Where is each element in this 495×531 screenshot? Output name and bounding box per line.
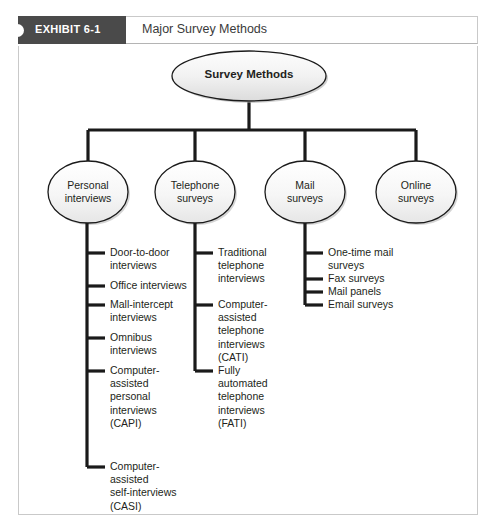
exhibit-tag-label: EXHIBIT 6-1	[35, 23, 101, 35]
node-label-online-surveys: Online surveys	[376, 179, 456, 204]
leaf-label-office-interviews: Office interviews	[110, 279, 204, 292]
exhibit-caption: Major Survey Methods	[142, 22, 267, 36]
leaf-label-omnibus-interviews: Omnibus interviews	[110, 331, 198, 357]
leaf-connectors-personal-interviews	[87, 223, 105, 467]
leaf-label-cati: Computer- assisted telephone interviews …	[218, 298, 306, 364]
node-label-telephone-surveys: Telephone surveys	[155, 179, 235, 204]
leaf-label-door-to-door-interviews: Door-to-door interviews	[110, 246, 198, 272]
leaf-label-mall-intercept-interviews: Mall-intercept interviews	[110, 298, 198, 324]
node-label-survey-methods: Survey Methods	[169, 68, 329, 81]
leaf-label-casi: Computer- assisted self-interviews (CASI…	[110, 460, 202, 513]
exhibit-header: EXHIBIT 6-1 Major Survey Methods	[18, 16, 478, 44]
node-label-personal-interviews: Personal interviews	[48, 179, 128, 204]
connector-lines	[88, 102, 416, 163]
diagram-canvas: Survey Methods Personal interviews Telep…	[19, 46, 479, 515]
leaf-connectors-mail-surveys	[305, 223, 323, 305]
leaf-label-capi: Computer- assisted personal interviews (…	[110, 364, 198, 430]
leaf-label-traditional-telephone-interviews: Traditional telephone interviews	[218, 246, 306, 286]
leaf-label-fati: Fully automated telephone interviews (FA…	[218, 364, 306, 430]
leaf-label-email-surveys: Email surveys	[328, 298, 424, 311]
leaf-label-mail-panels: Mail panels	[328, 285, 424, 298]
exhibit-tag: EXHIBIT 6-1	[18, 16, 126, 44]
diagram-frame: Survey Methods Personal interviews Telep…	[18, 46, 478, 515]
leaf-label-fax-surveys: Fax surveys	[328, 272, 424, 285]
oval-bullet-icon	[11, 24, 24, 37]
leaf-label-one-time-mail-surveys: One-time mail surveys	[328, 246, 424, 272]
node-label-mail-surveys: Mail surveys	[265, 179, 345, 204]
exhibit-figure: EXHIBIT 6-1 Major Survey Methods	[0, 0, 495, 531]
